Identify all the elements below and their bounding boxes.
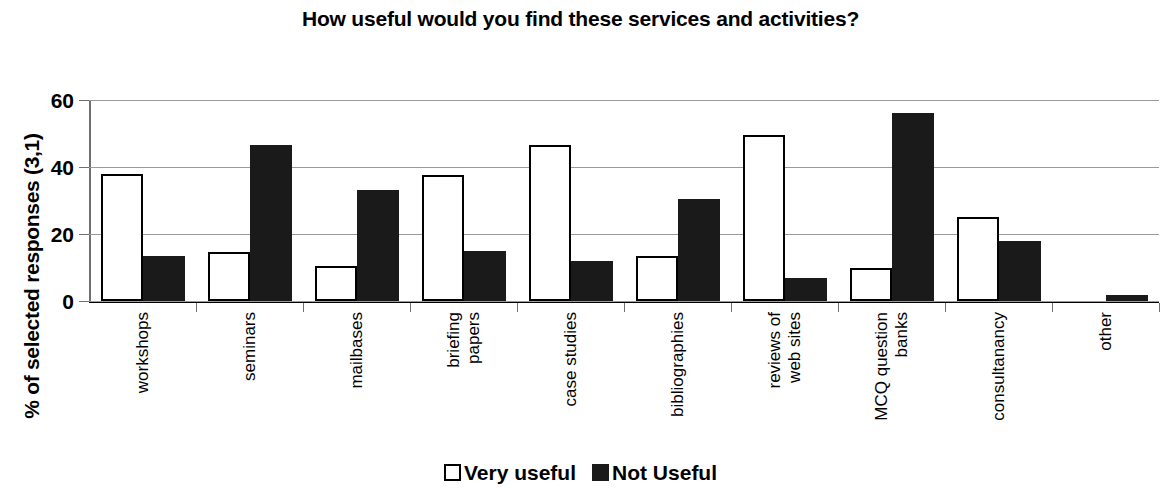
y-tick-label-40: 40 — [24, 157, 74, 178]
x-axis-label-line: mailbases — [347, 312, 366, 389]
bar — [143, 256, 185, 301]
legend-entry: Very useful — [444, 462, 576, 483]
x-axis-label: briefingpapers — [444, 312, 464, 442]
x-axis-label-line: papers — [464, 312, 484, 442]
x-tick — [517, 303, 518, 312]
y-tick-label-60: 60 — [24, 90, 74, 111]
x-tick — [731, 303, 732, 312]
x-axis-label-line: case studies — [561, 312, 580, 407]
legend-entry: Not Useful — [592, 462, 717, 483]
x-axis-label-line: bibliographies — [668, 312, 687, 417]
filled-square-icon — [592, 464, 609, 481]
legend-label: Not Useful — [612, 462, 717, 483]
x-axis-label: workshops — [133, 312, 153, 442]
open-square-icon — [444, 464, 461, 481]
x-axis-label: bibliographies — [668, 312, 688, 442]
x-axis-label: reviews ofweb sites — [765, 312, 785, 442]
x-axis-label: case studies — [561, 312, 581, 442]
x-axis-label-line: seminars — [240, 312, 259, 381]
bar — [315, 266, 357, 301]
y-tick-label-0: 0 — [24, 291, 74, 312]
bar — [101, 174, 143, 301]
x-axis-label-line: banks — [892, 312, 912, 442]
x-tick — [196, 303, 197, 312]
legend-label: Very useful — [464, 462, 576, 483]
chart-title: How useful would you find these services… — [0, 7, 1161, 31]
chart-legend: Very usefulNot Useful — [0, 462, 1161, 483]
bar — [999, 241, 1041, 301]
bar — [957, 217, 999, 301]
gridline-60 — [89, 100, 1159, 101]
x-axis-label: MCQ questionbanks — [872, 312, 892, 442]
x-tick — [838, 303, 839, 312]
x-axis-label-line: consultanancy — [989, 312, 1008, 421]
x-axis-label: consultanancy — [989, 312, 1009, 442]
x-axis-label-line: other — [1096, 312, 1115, 351]
x-axis-label-line: reviews of — [765, 312, 784, 389]
x-axis-label: other — [1096, 312, 1116, 442]
x-tick — [303, 303, 304, 312]
bar — [892, 113, 934, 301]
gridline-0 — [89, 301, 1159, 302]
bar-chart: How useful would you find these services… — [0, 0, 1161, 495]
bar — [636, 256, 678, 301]
bar — [743, 135, 785, 301]
bar — [250, 145, 292, 301]
x-axis-label-line: web sites — [785, 312, 805, 442]
x-tick — [410, 303, 411, 312]
bar — [678, 199, 720, 301]
bar — [529, 145, 571, 301]
bar — [850, 268, 892, 302]
x-tick — [1159, 303, 1160, 312]
x-axis-label-line: workshops — [133, 312, 152, 393]
plot-area — [89, 100, 1159, 301]
x-axis-label: mailbases — [347, 312, 367, 442]
y-tick-label-20: 20 — [24, 224, 74, 245]
x-tick — [945, 303, 946, 312]
bar — [208, 252, 250, 301]
x-axis-label-line: briefing — [444, 312, 463, 368]
bar — [1106, 295, 1148, 301]
bar — [571, 261, 613, 301]
bar — [422, 175, 464, 301]
bar — [357, 190, 399, 301]
x-axis-label-line: MCQ question — [872, 312, 891, 421]
x-tick — [624, 303, 625, 312]
x-axis-label: seminars — [240, 312, 260, 442]
bar — [464, 251, 506, 301]
x-tick — [1052, 303, 1053, 312]
bar — [785, 278, 827, 301]
